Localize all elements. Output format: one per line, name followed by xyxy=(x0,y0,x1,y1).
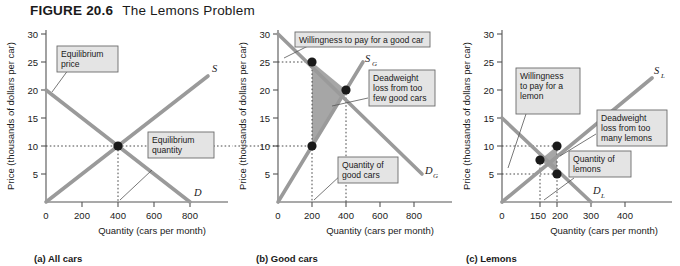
y-tick-25: 25 xyxy=(483,57,494,68)
callout-line: Deadweight xyxy=(601,113,647,123)
curve-label-subscript: L xyxy=(600,192,605,200)
y-tick-15: 15 xyxy=(483,113,494,124)
supply-lemon-curve-label: S L xyxy=(654,65,665,80)
x-tick-marks xyxy=(540,202,625,207)
callout-line: good cars xyxy=(342,170,380,180)
panel-good-cars: 5 10 15 20 25 30 0 200 400 600 xyxy=(232,22,456,266)
callout-quantity-good-cars: Quantity of good cars xyxy=(338,157,398,183)
willingness-lemon-point xyxy=(552,169,561,178)
callout-line: Quantity of xyxy=(342,160,384,170)
curve-label-subscript: L xyxy=(660,72,665,80)
y-tick-5: 5 xyxy=(489,169,494,180)
figure-number: FIGURE 20.6 xyxy=(30,3,113,18)
curve-label-letter: D xyxy=(592,185,601,196)
y-axis-title: Price (thousands of dollars per car) xyxy=(237,42,248,190)
y-tick-30: 30 xyxy=(259,29,270,40)
figure-container: FIGURE 20.6The Lemons Problem 5 xyxy=(0,0,680,266)
callout-deadweight-few-good-cars: Deadweight loss from too few good cars xyxy=(369,70,435,106)
leader-equilibrium-quantity xyxy=(120,170,152,200)
callout-line: lemon xyxy=(520,91,544,101)
callout-line: Willingness to pay for a good car xyxy=(299,35,424,45)
y-axis-title: Price (thousands of dollars per car) xyxy=(5,42,16,190)
y-tick-5: 5 xyxy=(265,169,270,180)
figure-title-text: The Lemons Problem xyxy=(122,3,255,18)
demand-lemon-curve-label: D L xyxy=(592,185,605,200)
x-tick-600: 600 xyxy=(146,210,162,221)
callout-willingness-lemon: Willingness to pay for a lemon xyxy=(516,68,580,114)
x-tick-800: 800 xyxy=(182,210,198,221)
callout-line: quantity xyxy=(152,145,183,155)
y-tick-25: 25 xyxy=(27,57,38,68)
panel-caption-a: (a) All cars xyxy=(34,253,82,264)
panel-caption-c: (c) Lemons xyxy=(466,253,517,264)
y-tick-20: 20 xyxy=(483,85,494,96)
x-tick-labels: 0 200 400 600 800 xyxy=(275,210,422,221)
curve-label-letter: S xyxy=(654,65,660,76)
callout-line: lemons xyxy=(573,164,601,174)
callout-line: loss from too xyxy=(601,123,650,133)
curve-label-subscript: G xyxy=(372,60,377,68)
y-axis-title: Price (thousands of dollars per car) xyxy=(461,42,472,190)
y-tick-5: 5 xyxy=(33,169,38,180)
x-tick-400: 400 xyxy=(338,210,354,221)
x-tick-labels: 0 150 200 300 400 xyxy=(499,210,633,221)
callout-equilibrium-price: Equilibrium price xyxy=(57,46,118,72)
x-axis-title: Quantity (cars per month) xyxy=(550,225,658,236)
callout-line: Willingness xyxy=(520,71,563,81)
supply-good-curve-label: S G xyxy=(365,53,377,68)
y-tick-15: 15 xyxy=(27,113,38,124)
supply-price-lemon-point xyxy=(552,141,561,150)
x-tick-400: 400 xyxy=(617,210,633,221)
y-tick-marks xyxy=(497,34,502,174)
y-tick-10: 10 xyxy=(27,141,38,152)
x-tick-600: 600 xyxy=(372,210,388,221)
y-tick-20: 20 xyxy=(27,85,38,96)
x-tick-0: 0 xyxy=(499,210,504,221)
figure-title: FIGURE 20.6The Lemons Problem xyxy=(30,3,255,18)
callout-line: loss from too xyxy=(373,83,422,93)
panel-caption-b: (b) Good cars xyxy=(256,253,318,264)
supply-price-point xyxy=(307,141,316,150)
curve-label-letter: S xyxy=(365,53,371,64)
leader-willingness-lemon xyxy=(508,114,526,168)
x-tick-0: 0 xyxy=(275,210,280,221)
x-axis-title: Quantity (cars per month) xyxy=(326,225,434,236)
panel-all-cars: 5 10 15 20 25 30 0 200 400 xyxy=(0,22,232,266)
x-tick-marks xyxy=(312,202,414,207)
plot-good-cars: 5 10 15 20 25 30 0 200 400 600 xyxy=(232,22,456,244)
leader-quantity-lemons xyxy=(544,178,574,200)
supply-curve-label: S xyxy=(212,63,218,74)
demand-good-curve-label: D G xyxy=(424,165,438,180)
callout-line: price xyxy=(61,59,80,69)
callout-equilibrium-quantity: Equilibrium quantity xyxy=(148,132,214,158)
x-axis-title: Quantity (cars per month) xyxy=(98,225,206,236)
y-tick-labels: 5 10 15 20 25 30 xyxy=(27,29,38,180)
y-tick-marks xyxy=(273,34,278,174)
y-tick-30: 30 xyxy=(27,29,38,40)
x-tick-labels: 0 200 400 600 800 xyxy=(43,210,198,221)
y-tick-15: 15 xyxy=(259,113,270,124)
callout-quantity-lemons: Quantity of lemons xyxy=(569,151,631,177)
y-tick-30: 30 xyxy=(483,29,494,40)
callout-line: Deadweight xyxy=(373,73,419,83)
callout-line: few good cars xyxy=(373,93,427,103)
y-tick-25: 25 xyxy=(259,57,270,68)
x-tick-200: 200 xyxy=(74,210,90,221)
y-tick-20: 20 xyxy=(259,85,270,96)
equilibrium-good-point xyxy=(341,85,350,94)
x-tick-150: 150 xyxy=(530,210,546,221)
y-tick-10: 10 xyxy=(259,141,270,152)
callout-line: Equilibrium xyxy=(152,135,195,145)
curve-label-letter: D xyxy=(424,165,433,176)
callout-deadweight-many-lemons: Deadweight loss from too many lemons xyxy=(597,110,667,146)
x-tick-marks xyxy=(82,202,190,207)
x-tick-200: 200 xyxy=(304,210,320,221)
x-tick-300: 300 xyxy=(583,210,599,221)
y-tick-10: 10 xyxy=(483,141,494,152)
y-tick-marks xyxy=(41,34,46,174)
x-tick-400: 400 xyxy=(110,210,126,221)
willingness-point xyxy=(307,57,316,66)
y-tick-labels: 5 10 15 20 25 30 xyxy=(259,29,270,180)
callout-line: Quantity of xyxy=(573,154,615,164)
callout-line: many lemons xyxy=(601,133,652,143)
